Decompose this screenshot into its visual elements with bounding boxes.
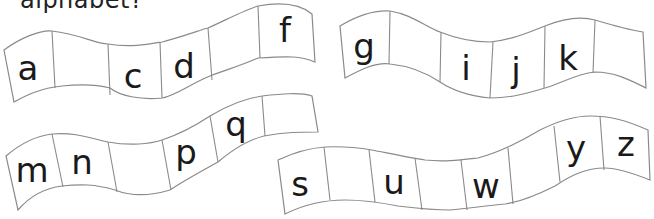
ribbon-1-cell-1: a	[18, 48, 39, 88]
alphabet-ribbons: a c d f g i j k m n p q	[0, 0, 654, 219]
ribbon-1-cell-3: c	[124, 56, 143, 96]
ribbon-4-cell-8: z	[617, 124, 635, 164]
ribbon-1: a c d f	[4, 4, 315, 102]
ribbon-3-cell-1: m	[15, 150, 48, 190]
ribbon-3-cell-2: n	[71, 142, 93, 182]
ribbon-2-cell-5: k	[558, 38, 578, 78]
ribbon-4-cell-1: s	[291, 164, 309, 204]
ribbon-3-cell-4: p	[175, 132, 197, 172]
ribbon-2-cell-1: g	[353, 26, 375, 66]
ribbon-4-cell-5: w	[472, 166, 500, 206]
ribbon-4-cell-7: y	[566, 128, 586, 168]
ribbon-4: s u w y z	[278, 116, 650, 214]
ribbon-3: m n p q	[6, 94, 318, 210]
ribbon-2: g i j k	[340, 11, 646, 98]
ribbon-1-cell-6: f	[279, 10, 292, 50]
ribbon-2-cell-3: i	[461, 48, 470, 88]
ribbon-2-cell-4: j	[510, 50, 520, 90]
ribbon-4-cell-3: u	[383, 162, 405, 202]
ribbon-3-cell-5: q	[225, 104, 247, 144]
ribbon-1-cell-4: d	[173, 46, 195, 86]
